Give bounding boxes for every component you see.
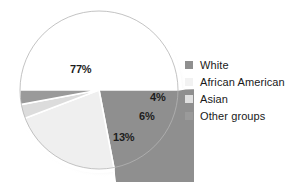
legend-item-asian: Asian	[185, 91, 303, 107]
pie-chart-plot: 77% 13% 6% 4%	[8, 2, 194, 182]
legend-label-african-american: African American	[200, 76, 285, 88]
legend-label-white: White	[200, 59, 229, 71]
legend-label-other-groups: Other groups	[200, 110, 265, 122]
slice-value-label-other-groups: 4%	[150, 91, 166, 103]
pie-chart-svg	[8, 2, 194, 182]
slice-value-label-asian: 6%	[139, 110, 155, 122]
slice-value-label-white: 77%	[70, 63, 91, 75]
legend-item-other-groups: Other groups	[185, 108, 303, 124]
legend-swatch-african-american-icon	[185, 78, 193, 86]
chart-legend: White African American Asian Other group…	[185, 57, 303, 125]
legend-item-african-american: African American	[185, 74, 303, 90]
legend-swatch-white-icon	[185, 61, 193, 69]
legend-swatch-asian-icon	[185, 95, 193, 103]
slice-value-label-african-american: 13%	[113, 131, 134, 143]
legend-swatch-other-groups-icon	[185, 112, 193, 120]
pie-chart-figure: 77% 13% 6% 4% White African American Asi…	[0, 0, 303, 183]
legend-item-white: White	[185, 57, 303, 73]
legend-label-asian: Asian	[200, 93, 228, 105]
